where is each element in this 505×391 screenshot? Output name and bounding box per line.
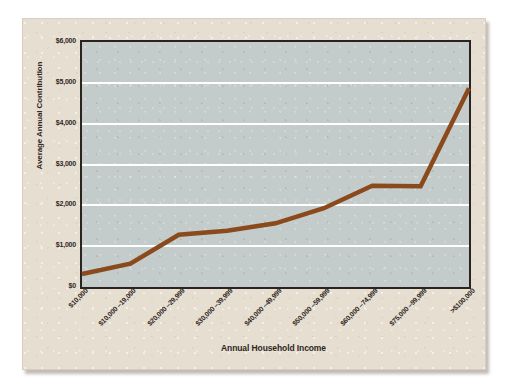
y-axis-tick-label: $2,000 <box>56 200 76 207</box>
plot-area <box>80 40 471 289</box>
x-axis-title: Annual Household Income <box>80 343 467 353</box>
y-axis-tick-label: $0 <box>69 282 76 289</box>
y-axis-tick-label: $6,000 <box>56 37 76 44</box>
chart-figure: Average Annual Contribution $0$1,000$2,0… <box>0 0 505 391</box>
data-series-line <box>82 42 469 287</box>
x-axis-tick-label: $50,000 –59,999 <box>291 287 331 327</box>
x-axis-tick-label: $10,000 –19,000 <box>97 287 137 327</box>
y-axis-tick-label: $5,000 <box>56 77 76 84</box>
series-line <box>82 88 469 274</box>
y-axis-tick-label: $1,000 <box>56 241 76 248</box>
x-axis-tick-label: >$100,000 <box>449 287 476 314</box>
x-axis-tick-label: $40,000 –49,999 <box>242 287 282 327</box>
y-axis-tick-label: $3,000 <box>56 159 76 166</box>
x-axis-tick-label: $20,000 –29,999 <box>146 287 186 327</box>
y-axis-tick-labels: $0$1,000$2,000$3,000$4,000$5,000$6,000 <box>31 40 76 285</box>
x-axis-tick-label: $60,000 –74,999 <box>339 287 379 327</box>
x-axis-tick-label: $75,000 –99,999 <box>388 287 428 327</box>
y-axis-tick-label: $4,000 <box>56 118 76 125</box>
x-axis-tick-label: $10,000 <box>67 287 89 309</box>
x-axis-tick-label: $30,000 –39,999 <box>194 287 234 327</box>
chart-card: Average Annual Contribution $0$1,000$2,0… <box>22 18 486 370</box>
